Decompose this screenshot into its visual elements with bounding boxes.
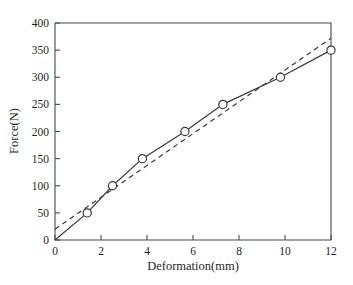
data-point-marker <box>181 127 189 135</box>
data-point-marker <box>138 155 146 163</box>
y-tick-label: 400 <box>32 17 50 29</box>
x-axis-ticks <box>55 235 331 240</box>
x-tick-label: 6 <box>190 245 196 257</box>
y-tick-label: 200 <box>32 126 50 138</box>
data-series-layer <box>55 38 331 240</box>
x-tick-label: 0 <box>52 245 58 257</box>
data-point-markers <box>83 46 335 217</box>
y-tick-label: 100 <box>32 180 50 192</box>
x-tick-label: 12 <box>325 245 337 257</box>
data-point-marker <box>108 182 116 190</box>
y-tick-label: 250 <box>32 98 50 110</box>
y-axis-tick-labels: 050100150200250300350400 <box>32 17 50 246</box>
x-tick-label: 2 <box>98 245 104 257</box>
x-tick-label: 4 <box>144 245 150 257</box>
x-axis-title: Deformation(mm) <box>147 259 239 273</box>
y-tick-label: 350 <box>32 44 50 56</box>
force-deformation-line-chart: 050100150200250300350400 024681012 Defor… <box>0 0 353 285</box>
x-axis-tick-labels: 024681012 <box>52 245 337 257</box>
y-tick-label: 150 <box>32 153 50 165</box>
plot-frame <box>55 23 331 240</box>
chart-figure: 050100150200250300350400 024681012 Defor… <box>0 0 353 285</box>
series-measured-curve <box>55 50 331 240</box>
data-point-marker <box>276 73 284 81</box>
y-axis-title: Force(N) <box>7 108 21 154</box>
y-tick-label: 50 <box>38 207 50 219</box>
x-tick-label: 8 <box>236 245 242 257</box>
y-tick-label: 0 <box>43 234 49 246</box>
series-fitted-line <box>55 38 331 229</box>
data-point-marker <box>83 209 91 217</box>
data-point-marker <box>327 46 335 54</box>
x-tick-label: 10 <box>279 245 291 257</box>
y-tick-label: 300 <box>32 71 50 83</box>
data-point-marker <box>219 100 227 108</box>
y-axis-ticks <box>55 23 60 240</box>
